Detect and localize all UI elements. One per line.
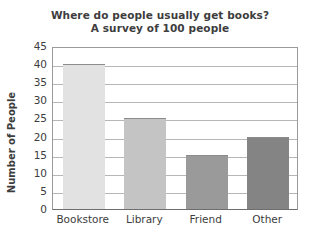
y-axis-tick-label: 0: [0, 204, 47, 215]
chart-title-line-1: Where do people usually get books?: [51, 9, 269, 21]
chart-title-line-2: A survey of 100 people: [0, 22, 320, 35]
y-axis-tick-label: 30: [0, 95, 47, 106]
y-axis-tick-label: 45: [0, 41, 47, 52]
bar-friend: [186, 155, 228, 209]
bar-other: [247, 137, 289, 209]
y-axis-tick-label: 35: [0, 77, 47, 88]
bar-bookstore: [63, 64, 105, 209]
y-axis-tick-labels: 454035302520151050: [0, 47, 47, 210]
y-axis-tick-label: 5: [0, 186, 47, 197]
x-axis-tick-labels: BookstoreLibraryFriendOther: [52, 213, 298, 233]
x-axis-tick-label-friend: Friend: [175, 213, 237, 226]
y-axis-tick-label: 40: [0, 59, 47, 70]
x-axis-tick-label-library: Library: [114, 213, 176, 226]
bar-library: [124, 118, 166, 209]
bar-chart-figure: Where do people usually get books? A sur…: [0, 0, 320, 241]
chart-title: Where do people usually get books? A sur…: [0, 9, 320, 35]
y-axis-tick-label: 15: [0, 150, 47, 161]
plot-area: [52, 47, 298, 210]
bars-layer: [53, 48, 297, 209]
y-axis-tick-label: 20: [0, 132, 47, 143]
y-axis-tick-label: 25: [0, 113, 47, 124]
x-axis-tick-label-other: Other: [237, 213, 299, 226]
x-axis-tick-label-bookstore: Bookstore: [52, 213, 114, 226]
y-axis-tick-label: 10: [0, 168, 47, 179]
